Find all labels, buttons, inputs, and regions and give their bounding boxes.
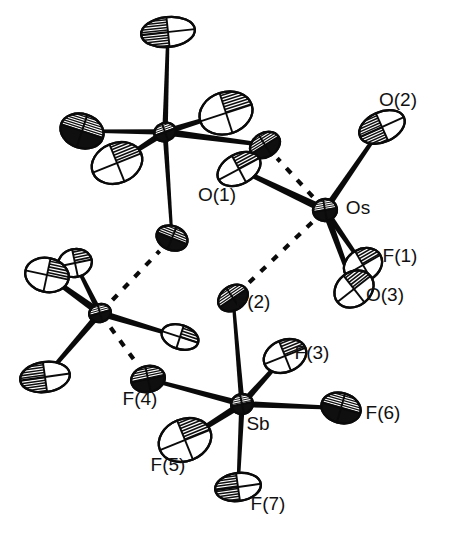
ortep-figure: O(2)O(1)OsF(1)O(3)F(2)F(3)F(6)SbF(4)F(5)… bbox=[0, 0, 460, 546]
thermal-ellipsoid-unlabeled bbox=[194, 85, 258, 142]
atom-label-F2: F(2) bbox=[236, 291, 271, 312]
atom-label-O3: O(3) bbox=[366, 284, 404, 305]
contact-M2-M1-f bbox=[112, 251, 159, 300]
thermal-ellipsoid-O2 bbox=[354, 104, 410, 151]
atom-label-F7: F(7) bbox=[251, 493, 286, 514]
thermal-ellipsoid-F6 bbox=[318, 388, 365, 428]
thermal-ellipsoid-unlabeled bbox=[158, 320, 202, 355]
atom-label-F6: F(6) bbox=[366, 402, 401, 423]
atom-label-Os: Os bbox=[346, 197, 370, 218]
atom-label-F5: F(5) bbox=[151, 454, 186, 475]
molecular-structure-canvas: O(2)O(1)OsF(1)O(3)F(2)F(3)F(6)SbF(4)F(5)… bbox=[0, 0, 460, 546]
atom-label-F3: F(3) bbox=[295, 342, 330, 363]
atom-label-O1: O(1) bbox=[198, 184, 236, 205]
thermal-ellipsoid-unlabeled bbox=[56, 108, 108, 154]
atom-label-Sb: Sb bbox=[246, 413, 269, 434]
bond-M1-M1-f bbox=[162, 132, 173, 238]
atom-label-F1: F(1) bbox=[383, 245, 418, 266]
thermal-ellipsoid-unlabeled bbox=[140, 14, 197, 49]
contact-M2-F4atom bbox=[111, 328, 138, 365]
bond-Sb-F2atom bbox=[232, 298, 245, 404]
atom-label-O2: O(2) bbox=[379, 89, 417, 110]
atom-label-F4: F(4) bbox=[123, 388, 158, 409]
contact-Os-F2atom bbox=[246, 222, 312, 285]
thermal-ellipsoid-unlabeled bbox=[18, 359, 72, 396]
atoms-layer bbox=[18, 14, 410, 504]
